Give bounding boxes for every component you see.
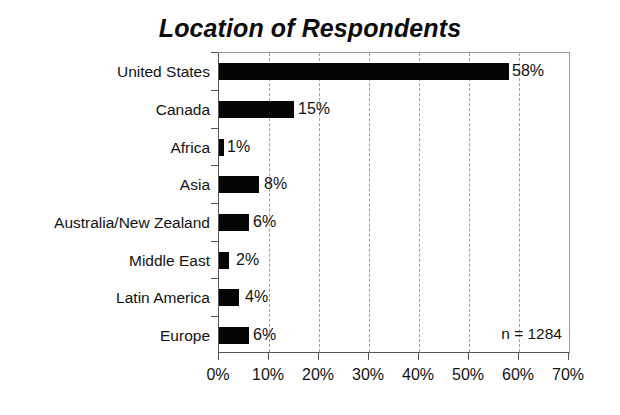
x-tick-50 [468, 353, 469, 360]
x-tick-0 [218, 353, 219, 360]
x-tick-40 [418, 353, 419, 360]
bar-value-latin-america: 4% [245, 288, 268, 306]
bar-value-australia-new-zealand: 6% [253, 213, 276, 231]
category-label-middle-east: Middle East [0, 252, 210, 270]
y-tick-6 [211, 278, 218, 279]
y-tick-2 [211, 128, 218, 129]
bar-value-africa: 1% [227, 138, 250, 156]
bar-australia-new-zealand [219, 214, 249, 231]
x-tick-20 [318, 353, 319, 360]
y-tick-7 [211, 316, 218, 317]
x-tick-label-70: 70% [533, 366, 603, 384]
x-tick-70 [568, 353, 569, 360]
bar-value-europe: 6% [253, 326, 276, 344]
x-tick-10 [268, 353, 269, 360]
category-label-australia-new-zealand: Australia/New Zealand [0, 214, 210, 232]
category-label-canada: Canada [0, 101, 210, 119]
bar-asia [219, 176, 259, 193]
gridline-30 [369, 53, 370, 352]
category-label-africa: Africa [0, 139, 210, 157]
y-tick-3 [211, 165, 218, 166]
gridline-60 [519, 53, 520, 352]
y-tick-1 [211, 90, 218, 91]
bar-value-middle-east: 2% [236, 251, 259, 269]
chart-title: Location of Respondents [0, 14, 620, 43]
category-label-latin-america: Latin America [0, 289, 210, 307]
x-tick-60 [518, 353, 519, 360]
bar-chart-figure: Location of Respondents United States Ca… [0, 0, 620, 415]
bar-value-asia: 8% [264, 175, 287, 193]
bar-canada [219, 101, 294, 118]
y-tick-0 [211, 52, 218, 53]
plot-area [218, 52, 570, 353]
x-tick-30 [368, 353, 369, 360]
category-label-europe: Europe [0, 327, 210, 345]
sample-size-annotation: n = 1284 [501, 325, 562, 343]
bar-latin-america [219, 289, 239, 306]
y-tick-4 [211, 203, 218, 204]
bar-middle-east [219, 252, 229, 269]
bar-value-united-states: 58% [512, 62, 544, 80]
gridline-20 [319, 53, 320, 352]
bar-united-states [219, 63, 509, 80]
gridline-40 [419, 53, 420, 352]
bar-europe [219, 327, 249, 344]
gridline-10 [269, 53, 270, 352]
bar-africa [219, 139, 224, 156]
y-tick-5 [211, 241, 218, 242]
bar-value-canada: 15% [298, 100, 330, 118]
category-label-asia: Asia [0, 176, 210, 194]
gridline-50 [469, 53, 470, 352]
category-label-united-states: United States [0, 63, 210, 81]
